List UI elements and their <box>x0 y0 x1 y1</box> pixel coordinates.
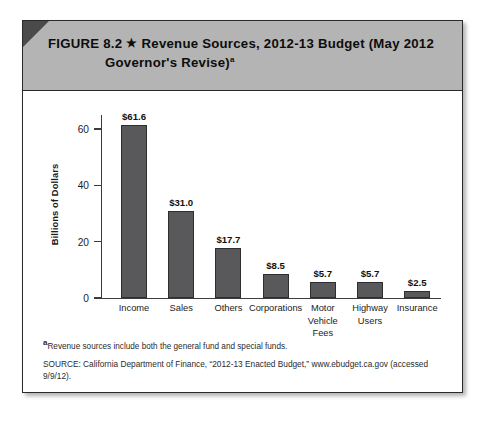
corner-fold-decoration <box>23 21 49 47</box>
footnote-source: SOURCE: California Department of Finance… <box>43 358 448 382</box>
title-footnote-marker: a <box>230 55 235 64</box>
figure-title-line-1: Revenue Sources, 2012-13 Budget (May 201… <box>142 36 434 51</box>
y-axis-tick-label: 20 <box>53 236 89 247</box>
bar-value-label: $17.7 <box>198 234 258 245</box>
y-axis-tick <box>94 297 102 298</box>
bar <box>310 282 336 298</box>
x-axis-category-line: Insurance <box>389 302 445 315</box>
figure-container: FIGURE 8.2★Revenue Sources, 2012-13 Budg… <box>22 20 463 393</box>
star-icon: ★ <box>122 34 141 53</box>
bar <box>168 211 194 298</box>
x-axis-category-line: Users <box>342 315 398 328</box>
footnote-note-text: Revenue sources include both the general… <box>47 342 287 351</box>
chart-plot-area: Billions of Dollars 0204060 $61.6Income$… <box>23 91 462 349</box>
bar-value-label: $61.6 <box>104 111 164 122</box>
bar <box>121 125 147 298</box>
y-axis-line <box>101 115 102 299</box>
figure-number-label: FIGURE 8.2 <box>48 36 122 51</box>
bar <box>215 248 241 298</box>
y-axis-title: Billions of Dollars <box>49 135 60 275</box>
bar <box>263 274 289 298</box>
y-axis-tick <box>94 185 102 186</box>
y-axis-tick-label: 40 <box>53 180 89 191</box>
figure-footnotes: aRevenue sources include both the genera… <box>43 341 448 382</box>
bar-value-label: $31.0 <box>151 197 211 208</box>
y-axis-tick-label: 0 <box>53 293 89 304</box>
footnote-note: aRevenue sources include both the genera… <box>43 341 448 353</box>
bar <box>357 282 383 298</box>
bar-value-label: $2.5 <box>387 277 447 288</box>
bar <box>404 291 430 298</box>
x-axis-category-line: Fees <box>295 327 351 340</box>
figure-title: FIGURE 8.2★Revenue Sources, 2012-13 Budg… <box>48 34 450 72</box>
figure-header-band: FIGURE 8.2★Revenue Sources, 2012-13 Budg… <box>23 21 462 91</box>
y-axis-tick-label: 60 <box>53 124 89 135</box>
x-axis-category-label: Insurance <box>389 302 445 315</box>
y-axis-tick <box>94 241 102 242</box>
figure-title-line-2: Governor's Revise) <box>105 55 230 70</box>
y-axis-tick <box>94 128 102 129</box>
x-axis-line <box>101 298 441 299</box>
